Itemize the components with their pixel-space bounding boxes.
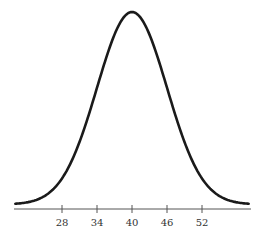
x-tick-label: 40 <box>126 217 139 228</box>
x-tick-label: 52 <box>196 217 209 228</box>
x-tick-label: 46 <box>161 217 174 228</box>
normal-curve <box>15 12 248 204</box>
x-tick-label: 28 <box>56 217 69 228</box>
x-tick-label: 34 <box>91 217 104 228</box>
x-axis-ticks: 2834404652 <box>56 205 209 228</box>
normal-curve-chart: 2834404652 <box>0 0 267 242</box>
